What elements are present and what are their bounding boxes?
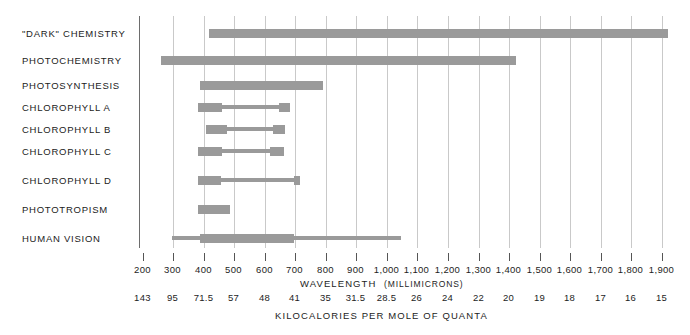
energy-axis-tick-label: 24 (442, 292, 453, 303)
x-axis-tick (387, 253, 388, 261)
gridline (387, 16, 388, 248)
energy-axis-tick-label: 95 (167, 292, 178, 303)
x-axis-tick (479, 253, 480, 261)
bar-segment (294, 176, 300, 185)
x-axis-tick-label: 1,100 (404, 264, 429, 275)
bar-segment (209, 29, 669, 38)
x-axis-title-unit: (MILLIMICRONS) (384, 279, 464, 289)
x-axis-tick-label: 200 (134, 264, 151, 275)
energy-axis-tick-label: 15 (656, 292, 667, 303)
gridline (540, 16, 541, 248)
gridline (295, 16, 296, 248)
energy-axis-tick-label: 22 (473, 292, 484, 303)
x-axis-tick-label: 1,000 (374, 264, 399, 275)
x-axis-tick (570, 253, 571, 261)
x-axis-tick-label: 400 (195, 264, 212, 275)
x-axis-tick (295, 253, 296, 261)
gridline (509, 16, 510, 248)
bar-segment (222, 149, 269, 153)
chart-page: "DARK" CHEMISTRYPHOTOCHEMISTRYPHOTOSYNTH… (0, 0, 690, 335)
bar-segment (161, 56, 515, 65)
bar-segment (172, 236, 199, 240)
x-axis-tick-label: 1,400 (496, 264, 521, 275)
bar-segment (198, 103, 222, 112)
gridline (662, 16, 663, 248)
gridline (570, 16, 571, 248)
gridline (326, 16, 327, 248)
x-axis-tick-label: 1,500 (527, 264, 552, 275)
bar-segment (198, 176, 221, 185)
x-axis-tick-label: 1,200 (435, 264, 460, 275)
energy-axis-tick-label: 16 (625, 292, 636, 303)
energy-axis-tick-label: 17 (595, 292, 606, 303)
bar-segment (200, 81, 324, 90)
energy-axis-tick-label: 48 (259, 292, 270, 303)
bar-segment (273, 125, 285, 134)
energy-axis-tick-label: 41 (289, 292, 300, 303)
x-axis-tick (540, 253, 541, 261)
x-axis-tick (631, 253, 632, 261)
energy-axis-tick-label: 19 (534, 292, 545, 303)
x-axis-tick-label: 300 (164, 264, 181, 275)
energy-axis-tick-label: 71.5 (194, 292, 214, 303)
gridline (417, 16, 418, 248)
gridline (479, 16, 480, 248)
x-axis-tick (601, 253, 602, 261)
plot-area: 2003004005006007008009001,0001,1001,2001… (0, 0, 690, 335)
x-axis-tick (173, 253, 174, 261)
x-axis-tick-label: 1,900 (649, 264, 674, 275)
x-axis-tick (448, 253, 449, 261)
bar-segment (221, 178, 294, 182)
x-axis-tick (509, 253, 510, 261)
y-axis-line (139, 16, 140, 248)
bar-segment (198, 147, 222, 156)
x-axis-title-text: WAVELENGTH (300, 278, 376, 289)
bar-segment (198, 205, 230, 214)
gridline (631, 16, 632, 248)
x-axis-tick (234, 253, 235, 261)
x-axis-tick (417, 253, 418, 261)
energy-axis-tick-label: 28.5 (377, 292, 397, 303)
x-axis-tick-label: 1,800 (618, 264, 643, 275)
x-axis-tick (326, 253, 327, 261)
bar-segment (270, 147, 284, 156)
gridline (173, 16, 174, 248)
energy-axis-tick-label: 26 (411, 292, 422, 303)
energy-axis-tick-label: 20 (503, 292, 514, 303)
bar-segment (279, 103, 290, 112)
x-axis-tick-label: 900 (347, 264, 364, 275)
energy-axis-title: KILOCALORIES PER MOLE OF QUANTA (275, 310, 488, 321)
x-axis-tick (662, 253, 663, 261)
x-axis-title: WAVELENGTH (MILLIMICRONS) (300, 278, 464, 289)
x-axis-tick-label: 700 (286, 264, 303, 275)
x-axis-tick-label: 1,600 (557, 264, 582, 275)
bar-segment (222, 105, 279, 109)
bar-segment (200, 234, 295, 243)
bar-segment (206, 125, 227, 134)
gridline (356, 16, 357, 248)
x-axis-tick-label: 500 (225, 264, 242, 275)
x-axis-tick (356, 253, 357, 261)
bar-segment (294, 236, 401, 240)
energy-axis-tick-label: 143 (134, 292, 151, 303)
x-axis-tick (204, 253, 205, 261)
gridline (234, 16, 235, 248)
energy-axis-tick-label: 18 (564, 292, 575, 303)
x-axis-tick-label: 1,300 (466, 264, 491, 275)
bar-segment (227, 127, 273, 131)
x-axis-tick (143, 253, 144, 261)
x-axis-tick-label: 600 (256, 264, 273, 275)
x-axis-tick-label: 1,700 (588, 264, 613, 275)
x-axis-tick (265, 253, 266, 261)
gridline (601, 16, 602, 248)
gridline (265, 16, 266, 248)
energy-axis-tick-label: 35 (320, 292, 331, 303)
gridline (448, 16, 449, 248)
energy-axis-tick-label: 57 (228, 292, 239, 303)
energy-axis-tick-label: 31.5 (346, 292, 366, 303)
x-axis-tick-label: 800 (317, 264, 334, 275)
